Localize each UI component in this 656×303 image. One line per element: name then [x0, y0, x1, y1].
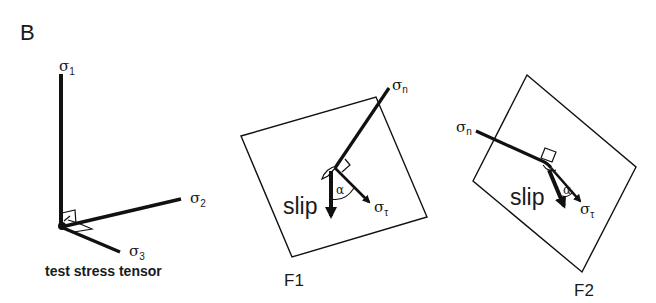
alpha-label-F1: α — [336, 183, 344, 197]
alpha-label-F2: α — [563, 183, 571, 197]
fault-label-F2: F2 — [574, 281, 594, 300]
shear-stress-label-F1: στ — [374, 198, 388, 218]
right-angle-marker-F1 — [342, 159, 350, 172]
sigma3-axis — [61, 227, 120, 252]
stress-diagram: B σ1 σ2 σ3 test stress tensor — [0, 0, 656, 303]
tensor-caption: test stress tensor — [45, 263, 162, 279]
sigma1-label: σ1 — [59, 57, 75, 77]
slip-label-F1: slip — [283, 193, 318, 219]
origin-marker — [58, 222, 66, 230]
panel-fault-F1: α σn στ slip F1 — [241, 76, 427, 290]
panel-fault-F2: α σn στ slip F2 — [456, 75, 636, 300]
normal-stress-line-F2 — [476, 131, 551, 168]
diagram-canvas: B σ1 σ2 σ3 test stress tensor — [0, 0, 656, 303]
shear-stress-label-F2: στ — [580, 200, 594, 220]
sigma3-label: σ3 — [129, 242, 145, 262]
normal-stress-label-F2: σn — [456, 118, 472, 137]
panel-label: B — [20, 20, 35, 45]
normal-stress-label-F1: σn — [392, 76, 408, 95]
sigma2-label: σ2 — [190, 189, 206, 209]
normal-stress-line-F1 — [335, 88, 389, 168]
panel-test-stress-tensor: σ1 σ2 σ3 test stress tensor — [45, 57, 206, 279]
fault-plane-F1 — [241, 97, 427, 257]
fault-label-F1: F1 — [284, 271, 304, 290]
slip-label-F2: slip — [510, 184, 545, 210]
